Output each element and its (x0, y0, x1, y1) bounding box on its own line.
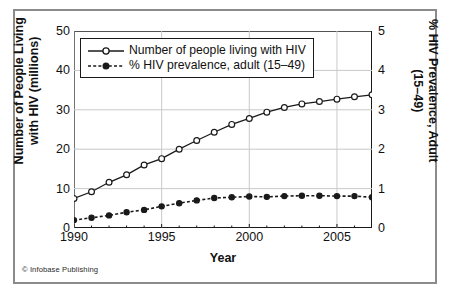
data-point (89, 189, 95, 195)
data-point (159, 204, 164, 209)
y-tick-label-right: 5 (378, 25, 404, 38)
data-point (142, 207, 147, 212)
y-tick-label-left: 40 (44, 64, 70, 77)
y-axis-right-ticks: 012345 (378, 31, 406, 228)
data-point (141, 162, 147, 168)
data-point (194, 198, 199, 203)
y-tick-label-left: 30 (44, 104, 70, 117)
data-point (176, 146, 182, 152)
legend-item-hiv-count: Number of people living with HIV (86, 43, 306, 58)
data-point (212, 195, 217, 200)
chart-figure: 01020304050 012345 1990199520002005 Numb… (0, 0, 449, 296)
data-point (177, 201, 182, 206)
data-point (211, 129, 217, 135)
y-tick-label-right: 4 (378, 64, 404, 77)
data-point (247, 194, 252, 199)
y-axis-right-label: % HIV Prevalence, Adult (15–49) (410, 6, 440, 176)
series-line-hiv-count (74, 95, 372, 199)
data-point (334, 193, 339, 198)
data-point (229, 121, 235, 127)
data-point (89, 215, 94, 220)
chart-legend: Number of people living with HIV % HIV p… (80, 38, 314, 78)
data-point (352, 94, 358, 100)
data-point (194, 138, 200, 144)
data-point (264, 109, 270, 115)
y-tick-label-left: 10 (44, 183, 70, 196)
x-axis-ticks: 1990199520002005 (74, 231, 372, 249)
x-tick-label: 1990 (50, 231, 98, 244)
data-series-layer (74, 92, 372, 223)
data-point (106, 213, 111, 218)
y-axis-left-ticks: 01020304050 (42, 31, 70, 228)
series-line-prevalence (74, 196, 372, 220)
data-point (282, 193, 287, 198)
legend-marker-filled-circle-icon (86, 59, 126, 73)
data-point (106, 179, 112, 185)
y-tick-label-right: 2 (378, 143, 404, 156)
data-point (74, 196, 77, 202)
legend-label-prevalence: % HIV prevalence, adult (15–49) (126, 59, 305, 71)
data-point (281, 105, 287, 111)
data-point (159, 156, 165, 162)
data-point (74, 218, 77, 223)
data-point (246, 116, 252, 122)
y-tick-label-right: 1 (378, 183, 404, 196)
data-point (299, 101, 305, 107)
data-point (317, 193, 322, 198)
x-tick-marks (74, 224, 372, 228)
y-tick-label-right: 3 (378, 104, 404, 117)
y-tick-label-left: 50 (44, 25, 70, 38)
data-point (229, 195, 234, 200)
data-point (124, 172, 130, 178)
data-point (334, 96, 340, 102)
data-point (352, 193, 357, 198)
data-point (264, 194, 269, 199)
data-point (299, 193, 304, 198)
x-tick-label: 2005 (313, 231, 361, 244)
data-point (317, 99, 323, 105)
legend-marker-open-circle-icon (86, 44, 126, 58)
copyright-credit: © Infobase Publishing (22, 265, 98, 274)
x-axis-label: Year (74, 251, 372, 265)
y-tick-label-right: 0 (378, 222, 404, 235)
legend-item-prevalence: % HIV prevalence, adult (15–49) (86, 58, 306, 73)
data-point (124, 210, 129, 215)
legend-label-hiv-count: Number of people living with HIV (126, 44, 306, 56)
x-tick-label: 2000 (225, 231, 273, 244)
x-tick-label: 1995 (138, 231, 186, 244)
y-tick-label-left: 20 (44, 143, 70, 156)
data-point (369, 92, 372, 98)
y-axis-left-label: Number of People Living with HIV (millio… (12, 6, 42, 176)
data-point (369, 195, 372, 200)
